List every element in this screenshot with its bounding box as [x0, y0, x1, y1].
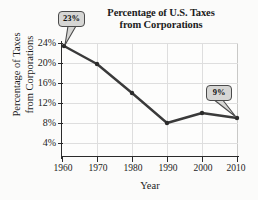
- y-axis-title-line-1: Percentage of Taxes: [11, 0, 24, 150]
- y-axis-tick: [58, 83, 63, 84]
- x-axis-tick-label: 1970: [78, 163, 118, 173]
- x-axis-tick: [97, 157, 98, 162]
- y-axis-title: Percentage of Taxes from Corporations: [11, 0, 36, 150]
- x-axis-tick: [167, 157, 168, 162]
- y-axis-tick: [58, 63, 63, 64]
- gridline-horizontal: [62, 143, 238, 144]
- x-axis-tick-label: 2010: [216, 163, 256, 173]
- x-axis-tick-label: 1990: [148, 163, 188, 173]
- x-axis-tick-label: 1960: [43, 163, 83, 173]
- chart-title-line-2: from Corporations: [86, 19, 236, 31]
- plot-frame-right: [237, 43, 238, 157]
- y-axis-tick: [58, 143, 63, 144]
- chart-title: Percentage of U.S. Taxes from Corporatio…: [86, 7, 236, 31]
- gridline-horizontal: [62, 103, 238, 104]
- x-axis-tick: [237, 157, 238, 162]
- gridline-vertical: [97, 43, 98, 157]
- x-axis-line: [61, 156, 239, 157]
- chart-title-line-1: Percentage of U.S. Taxes: [86, 7, 236, 19]
- annotation-callout-1960: 23%: [58, 11, 85, 27]
- x-axis-tick: [62, 157, 63, 162]
- y-axis-line: [61, 41, 62, 159]
- x-axis-tick: [202, 157, 203, 162]
- gridline-horizontal: [62, 123, 238, 124]
- gridline-horizontal: [62, 43, 238, 44]
- annotation-callout-2010: 9%: [206, 85, 232, 101]
- line-chart: Percentage of U.S. Taxes from Corporatio…: [0, 0, 258, 200]
- x-axis-tick-label: 1980: [113, 163, 153, 173]
- gridline-vertical: [167, 43, 168, 157]
- x-axis-tick: [132, 157, 133, 162]
- gridline-vertical: [132, 43, 133, 157]
- x-axis-title: Year: [100, 180, 200, 191]
- y-axis-title-line-2: from Corporations: [23, 0, 36, 150]
- y-axis-tick: [58, 123, 63, 124]
- y-axis-tick: [58, 103, 63, 104]
- gridline-vertical: [202, 43, 203, 157]
- gridline-horizontal: [62, 83, 238, 84]
- y-axis-tick: [58, 43, 63, 44]
- gridline-horizontal: [62, 63, 238, 64]
